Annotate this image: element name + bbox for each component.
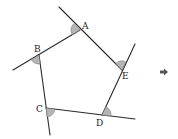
vertex-label-E: E [122,71,129,81]
line-CD-extended [46,108,135,119]
vertex-label-B: B [34,44,41,54]
vertex-label-A: A [81,21,89,31]
line-AB-extended [13,30,80,70]
line-BC-extended [39,55,50,135]
vertex-label-C: C [36,104,43,114]
line-EA-extended [59,7,122,70]
exterior-angle-C [46,108,55,117]
vertex-label-D: D [96,118,103,128]
pentagon-exterior-angles-diagram: A B C D E [0,0,178,139]
right-arrow-icon [160,69,168,76]
exterior-angle-E [116,61,126,70]
